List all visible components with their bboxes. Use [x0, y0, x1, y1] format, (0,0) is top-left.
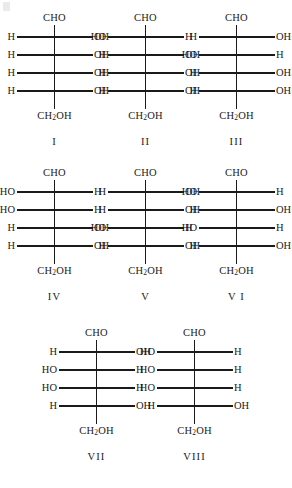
- bottom-group-prefix: CH: [37, 110, 52, 121]
- bond-left: [59, 387, 97, 388]
- substituent-right: H: [275, 50, 292, 61]
- substituent-left: HO: [129, 347, 157, 358]
- bond-left: [157, 351, 195, 352]
- substituent-left: H: [0, 32, 17, 43]
- bond-left: [199, 36, 237, 37]
- top-group-label: CHO: [43, 12, 66, 23]
- substituent-left: HO: [0, 205, 17, 216]
- bottom-group-suffix: OH: [238, 110, 254, 121]
- bond-left: [108, 36, 146, 37]
- bottom-group-label: CH2OH: [128, 265, 163, 278]
- bottom-group-label: CH2OH: [219, 265, 254, 278]
- bond-left: [199, 72, 237, 73]
- bond-left: [108, 72, 146, 73]
- top-group-label: CHO: [43, 167, 66, 178]
- substituent-left: H: [0, 86, 17, 97]
- bond-left: [108, 54, 146, 55]
- substituent-left: H: [171, 205, 199, 216]
- substituent-left: H: [0, 241, 17, 252]
- bond-left: [199, 245, 237, 246]
- structure-row-3: CHOHOHHOHHOHHOHCH2OHVIICHOHOHHOHHOHHOHCH…: [0, 327, 291, 465]
- substituent-left: HO: [129, 383, 157, 394]
- substituent-left: HO: [171, 223, 199, 234]
- bottom-group-suffix: OH: [238, 265, 254, 276]
- substituent-right: H: [233, 383, 261, 394]
- structure-label: VIII: [183, 451, 205, 463]
- substituent-right: OH: [275, 241, 292, 252]
- bottom-group-suffix: OH: [56, 265, 72, 276]
- substituent-left: H: [0, 50, 17, 61]
- bond-left: [108, 90, 146, 91]
- substituent-right: OH: [275, 86, 292, 97]
- carbon-chain: HOHHOHHOHHOH: [191, 180, 282, 264]
- bottom-group-suffix: OH: [98, 425, 114, 436]
- substituent-right: H: [275, 187, 292, 198]
- bond-right: [237, 227, 275, 228]
- substituent-left: H: [80, 241, 108, 252]
- bond-right: [237, 90, 275, 91]
- bottom-group-prefix: CH: [37, 265, 52, 276]
- bond-left: [17, 90, 55, 91]
- bottom-group-suffix: OH: [147, 110, 163, 121]
- substituent-right: H: [233, 347, 261, 358]
- bottom-group-prefix: CH: [177, 425, 192, 436]
- substituent-left: HO: [80, 223, 108, 234]
- structure-row-2: CHOHOHHOHHOHHOHCH2OHIVCHOHOHHOHHOHHOHCH2…: [0, 167, 291, 305]
- bond-left: [108, 191, 146, 192]
- bond-right: [195, 369, 233, 370]
- substituent-left: H: [80, 68, 108, 79]
- bond-left: [199, 54, 237, 55]
- substituent-left: H: [80, 50, 108, 61]
- bottom-group-label: CH2OH: [219, 110, 254, 123]
- bottom-group-label: CH2OH: [177, 425, 212, 438]
- substituent-right: H: [233, 365, 261, 376]
- fischer-structure: CHOHOHHOHHOHHOHCH2OHVIII: [146, 327, 244, 465]
- bottom-group-prefix: CH: [79, 425, 94, 436]
- substituent-left: H: [171, 86, 199, 97]
- structure-label: V: [141, 291, 150, 303]
- top-group-label: CHO: [85, 327, 108, 338]
- bond-left: [17, 36, 55, 37]
- top-group-label: CHO: [134, 12, 157, 23]
- bond-left: [199, 191, 237, 192]
- structure-label: V I: [228, 291, 245, 303]
- substituent-left: HO: [0, 187, 17, 198]
- substituent-left: H: [129, 401, 157, 412]
- bond-left: [17, 72, 55, 73]
- bottom-group-prefix: CH: [128, 265, 143, 276]
- bond-left: [59, 351, 97, 352]
- bottom-group-prefix: CH: [128, 110, 143, 121]
- substituent-left: H: [31, 347, 59, 358]
- fischer-projection-diagram: CHOHOHHOHHOHHOHCH2OHICHOHOHHOHHOHHOHCH2O…: [0, 0, 291, 488]
- substituent-left: H: [0, 68, 17, 79]
- bond-left: [17, 209, 55, 210]
- substituent-left: H: [80, 187, 108, 198]
- fischer-structure: CHOHOHHOHHOHHOHCH2OHIII: [191, 12, 282, 150]
- substituent-left: H: [80, 205, 108, 216]
- bond-right: [237, 245, 275, 246]
- carbon-chain: HOHHOHHOHHOH: [146, 340, 244, 424]
- bond-left: [199, 227, 237, 228]
- substituent-left: HO: [171, 187, 199, 198]
- carbon-chain: HOHHOHHOHHOH: [191, 25, 282, 109]
- bond-left: [59, 369, 97, 370]
- bond-right: [237, 209, 275, 210]
- bottom-group-suffix: OH: [56, 110, 72, 121]
- bond-left: [59, 405, 97, 406]
- bond-left: [157, 369, 195, 370]
- substituent-left: HO: [31, 365, 59, 376]
- bottom-group-suffix: OH: [196, 425, 212, 436]
- structure-label: IV: [48, 291, 61, 303]
- bottom-group-suffix: OH: [147, 265, 163, 276]
- substituent-left: H: [0, 223, 17, 234]
- bond-right: [237, 36, 275, 37]
- fischer-structure: CHOHOHHOHHOHHOHCH2OHV I: [191, 167, 282, 305]
- substituent-left: H: [171, 68, 199, 79]
- substituent-left: HO: [171, 50, 199, 61]
- structure-label: III: [230, 136, 244, 148]
- substituent-left: HO: [31, 383, 59, 394]
- top-group-label: CHO: [225, 12, 248, 23]
- substituent-right: OH: [275, 32, 292, 43]
- substituent-left: H: [80, 86, 108, 97]
- structure-label: VII: [88, 451, 106, 463]
